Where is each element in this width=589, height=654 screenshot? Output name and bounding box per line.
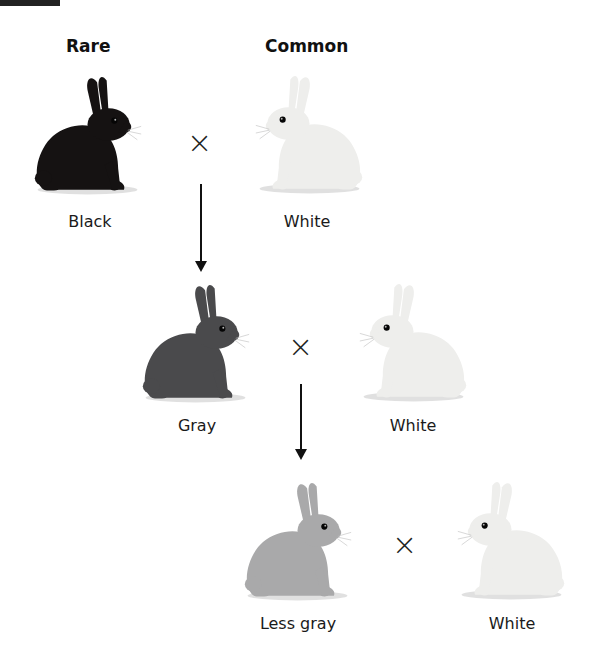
arrow-down-icon — [200, 184, 202, 262]
rabbit-white-icon — [252, 68, 367, 200]
label-less-gray: Less gray — [238, 614, 358, 633]
label-gray: Gray — [137, 416, 257, 435]
arrow-down-icon — [300, 384, 302, 450]
rabbit-black-icon — [30, 70, 145, 200]
cross-symbol: × — [392, 530, 417, 560]
label-white: White — [452, 614, 572, 633]
rabbit-gray-icon — [138, 278, 253, 408]
rabbit-white-icon — [356, 276, 471, 408]
heading-rare: Rare — [66, 36, 110, 56]
label-black: Black — [30, 212, 150, 231]
cross-symbol: × — [288, 332, 313, 362]
heading-common: Common — [265, 36, 348, 56]
cropped-text-fragment — [0, 0, 60, 6]
rabbit-white-icon — [454, 474, 569, 606]
label-white: White — [247, 212, 367, 231]
cross-symbol: × — [187, 128, 212, 158]
rabbit-less-gray-icon — [240, 476, 355, 606]
label-white: White — [353, 416, 473, 435]
